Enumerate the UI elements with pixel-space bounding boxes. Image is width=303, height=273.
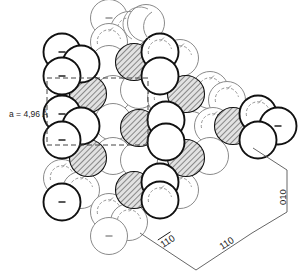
atom-circle xyxy=(44,122,81,159)
axis-line-corner-lower xyxy=(252,212,287,233)
lattice-constant-label: a = 4,96 Å xyxy=(9,109,48,119)
atom-circles-group xyxy=(44,0,297,255)
atom-circle xyxy=(44,184,81,221)
atom-circle xyxy=(240,122,277,159)
atom-circle xyxy=(142,58,179,95)
lattice-constant-group: a = 4,96 Å xyxy=(9,109,48,119)
axis-label-vertical: 010 xyxy=(277,189,288,205)
atom-circle xyxy=(148,124,185,161)
atom-circle xyxy=(91,218,128,255)
packing-diagram-svg: 110 110 010 a = 4,96 Å xyxy=(0,0,303,273)
atom-circle xyxy=(142,182,179,219)
axis-label-right-diagonal: 110 xyxy=(217,234,236,251)
atom-circle xyxy=(44,58,81,95)
crystal-packing-figure: 110 110 010 a = 4,96 Å xyxy=(0,0,303,273)
